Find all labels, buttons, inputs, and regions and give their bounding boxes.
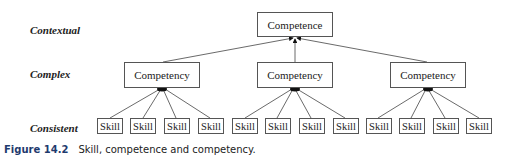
skill-box: Skill (366, 118, 392, 134)
caption-text: Skill, competence and competency. (78, 144, 255, 155)
figure-caption: Figure 14.2Skill, competence and compete… (4, 144, 256, 155)
skill-box: Skill (232, 118, 258, 134)
skill-box: Skill (433, 118, 459, 134)
skill-box: Skill (97, 118, 123, 134)
skill-box: Skill (164, 118, 190, 134)
skill-box: Skill (466, 118, 492, 134)
skill-box: Skill (130, 118, 156, 134)
level-label-consistent: Consistent (30, 122, 78, 134)
competency-box: Competency (390, 62, 466, 88)
figure-number: Figure 14.2 (4, 144, 68, 155)
competence-box: Competence (257, 12, 333, 37)
level-label-complex: Complex (30, 68, 70, 80)
skill-box: Skill (333, 118, 359, 134)
skill-box: Skill (265, 118, 291, 134)
skill-box: Skill (399, 118, 425, 134)
competency-box: Competency (257, 62, 333, 88)
competency-box: Competency (124, 62, 200, 88)
skill-box: Skill (299, 118, 325, 134)
skill-box: Skill (198, 118, 224, 134)
level-label-contextual: Contextual (30, 24, 80, 36)
